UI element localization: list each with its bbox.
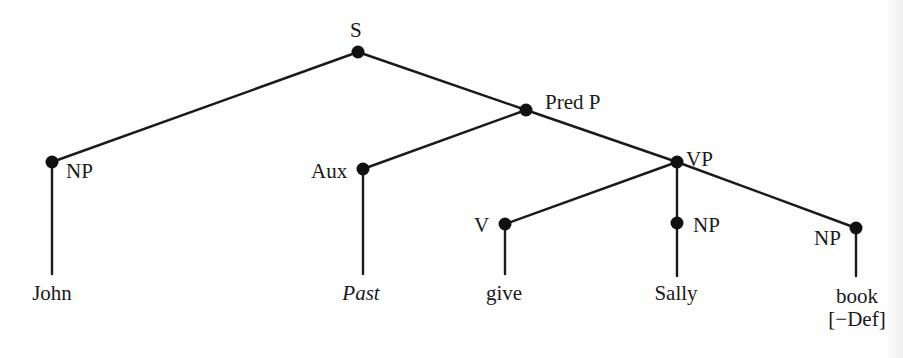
leaf-word-give: give — [486, 283, 522, 304]
node-label-np-book: NP — [814, 228, 841, 249]
node-label-pred-p: Pred P — [545, 92, 600, 113]
edge-predp-aux — [363, 110, 526, 169]
leaf-word-john: John — [32, 283, 72, 304]
node-dot-np-sally — [671, 217, 684, 230]
node-label-s: S — [350, 20, 362, 41]
edge-predp-vp — [526, 110, 677, 162]
node-dot-s — [352, 46, 365, 59]
leaf-word-sally: Sally — [654, 283, 697, 304]
tree-edges — [0, 0, 903, 358]
leaf-word-book: book — [836, 286, 878, 307]
node-dot-v — [499, 218, 512, 231]
node-label-np-sally: NP — [693, 215, 720, 236]
node-label-vp: VP — [686, 149, 713, 170]
node-label-np-john: NP — [66, 161, 93, 182]
syntax-tree-diagram: S NP Pred P Aux VP V NP NP John Past giv… — [0, 0, 903, 358]
node-label-v: V — [474, 215, 489, 236]
edge-s-predp — [358, 52, 526, 110]
node-dot-np-john — [46, 156, 59, 169]
leaf-word-past: Past — [342, 283, 379, 304]
edge-vp-v — [505, 162, 677, 224]
leaf-feature-def: [−Def] — [828, 309, 885, 330]
node-dot-predp — [520, 104, 533, 117]
edge-s-np — [52, 52, 358, 162]
node-label-aux: Aux — [311, 161, 347, 182]
node-dot-vp — [671, 156, 684, 169]
node-dot-aux — [357, 163, 370, 176]
node-dot-np-book — [850, 222, 863, 235]
